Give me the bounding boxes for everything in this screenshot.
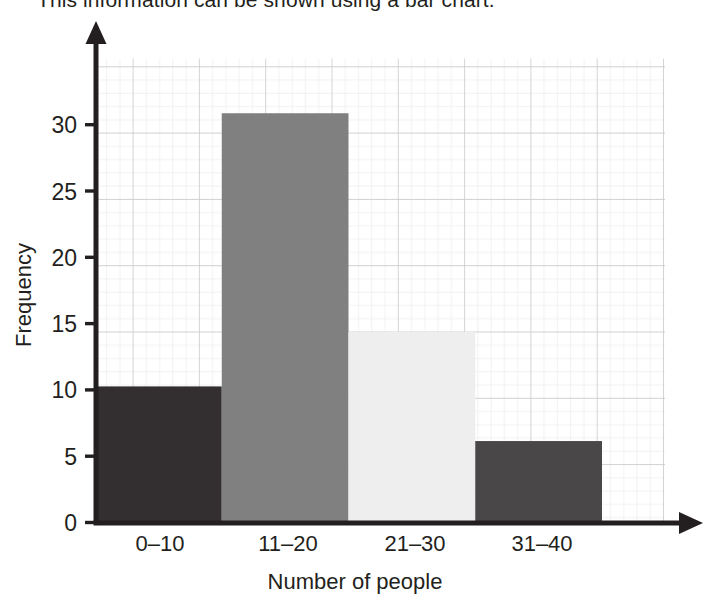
x-axis-title: Number of people [268,569,443,594]
x-tick-label-2: 21–30 [384,531,445,556]
x-tick-label-0: 0–10 [136,531,185,556]
y-tick-label-25: 25 [51,179,77,205]
y-tick-label-5: 5 [64,444,77,470]
x-tick-labels: 0–10 11–20 21–30 31–40 [136,531,573,556]
bar-chart: 0 5 10 15 20 25 30 Frequency 0–10 11–20 … [0,0,717,604]
x-tick-label-1: 11–20 [258,531,318,556]
bar-31-40 [475,441,602,523]
y-tick-label-20: 20 [51,245,77,271]
y-tick-label-15: 15 [51,311,77,337]
y-tick-labels: 0 5 10 15 20 25 30 [51,112,77,536]
y-tick-label-0: 0 [64,510,77,536]
x-tick-label-3: 31–40 [511,531,572,556]
y-tick-label-30: 30 [51,112,77,138]
y-axis-title: Frequency [11,243,36,347]
bar-0-10 [95,386,222,523]
bar-21-30 [349,332,476,523]
y-tick-label-10: 10 [51,377,77,403]
bar-11-20 [222,113,349,523]
bar-chart-svg: 0 5 10 15 20 25 30 Frequency 0–10 11–20 … [0,0,717,604]
